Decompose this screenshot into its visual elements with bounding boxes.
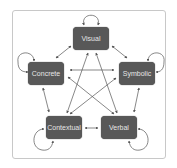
node-label: Verbal — [109, 124, 129, 131]
node-concrete: Concrete — [28, 62, 64, 85]
node-contextual: Contextual — [46, 116, 82, 139]
edge-symbolic-contextual — [70, 78, 116, 114]
node-label: Concrete — [32, 70, 60, 77]
node-label: Visual — [82, 35, 101, 42]
edge-concrete-verbal — [68, 77, 114, 114]
edge-concrete-contextual — [43, 88, 49, 112]
node-visual: Visual — [73, 27, 109, 50]
node-verbal: Verbal — [101, 116, 137, 139]
node-symbolic: Symbolic — [119, 62, 155, 85]
edge-visual-verbal — [96, 53, 117, 113]
edge-visual-contextual — [67, 53, 88, 113]
node-label: Symbolic — [123, 70, 151, 77]
node-label: Contextual — [47, 124, 80, 131]
edge-visual-concrete — [56, 46, 71, 58]
edge-symbolic-verbal — [134, 88, 139, 112]
self-loop-visual — [84, 15, 99, 25]
edge-visual-symbolic — [112, 46, 127, 58]
